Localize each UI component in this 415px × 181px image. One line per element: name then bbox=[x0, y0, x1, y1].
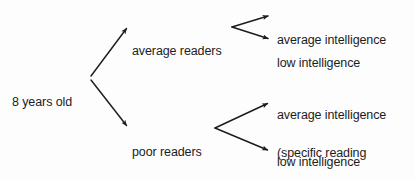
node-root: 8 years old bbox=[12, 71, 72, 134]
node-poor-readers: poor readers bbox=[132, 121, 202, 181]
node-average-readers-label: average readers bbox=[132, 45, 222, 58]
diagram-canvas: 8 years old average readers poor readers… bbox=[0, 0, 415, 181]
edge-average-readers-to-low-intelligence bbox=[232, 27, 268, 39]
node-poor-readers-low-intelligence-line1: low intelligence bbox=[277, 156, 366, 169]
node-poor-readers-average-intelligence-line1: average intelligence bbox=[277, 109, 386, 122]
edge-root-to-average-readers bbox=[91, 29, 127, 77]
node-poor-readers-low-intelligence: low intelligence (general reading backwa… bbox=[277, 131, 366, 181]
node-average-readers-low-intelligence-line1: low intelligence bbox=[277, 57, 360, 70]
edge-root-to-poor-readers bbox=[91, 80, 127, 126]
node-poor-readers-label: poor readers bbox=[132, 146, 202, 159]
edge-poor-readers-to-low-intelligence bbox=[215, 128, 268, 150]
node-root-label: 8 years old bbox=[12, 96, 72, 109]
edge-average-readers-to-average-intelligence bbox=[232, 16, 268, 27]
edge-poor-readers-to-average-intelligence bbox=[215, 104, 268, 129]
node-average-readers: average readers bbox=[132, 20, 222, 83]
